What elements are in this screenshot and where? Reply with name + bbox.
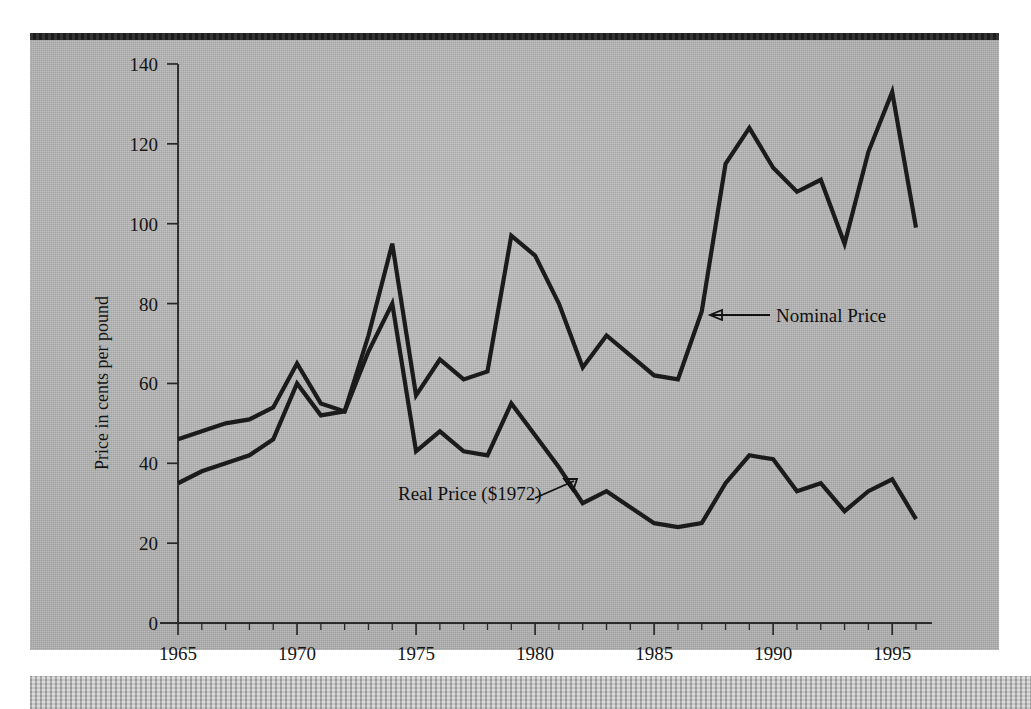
- y-axis-title: Price in cents per pound: [92, 296, 112, 470]
- series-line-nominal-price: [178, 92, 916, 439]
- x-axis: 1965197019751980198519901995: [159, 623, 932, 664]
- y-axis: 020406080100120140: [130, 54, 179, 634]
- y-axis-tick-labels: 020406080100120140: [130, 54, 159, 634]
- y-tick-label: 120: [130, 134, 159, 155]
- price-line-chart: 020406080100120140 196519701975198019851…: [0, 0, 1031, 709]
- nominal-annotation-arrow: [710, 310, 770, 320]
- nominal-annotation-label: Nominal Price: [776, 305, 886, 326]
- x-tick-label: 1985: [635, 643, 673, 664]
- annotation-real-price: Real Price ($1972): [398, 479, 577, 505]
- y-tick-label: 100: [130, 214, 159, 235]
- y-tick-label: 140: [130, 54, 159, 75]
- x-tick-label: 1975: [397, 643, 435, 664]
- x-tick-label: 1970: [278, 643, 316, 664]
- x-axis-tick-labels: 1965197019751980198519901995: [159, 643, 911, 664]
- y-tick-label: 20: [139, 533, 158, 554]
- y-axis-ticks: [167, 64, 178, 623]
- x-axis-minor-ticks: [178, 623, 916, 635]
- annotation-nominal-price: Nominal Price: [710, 305, 886, 326]
- y-tick-label: 60: [139, 373, 158, 394]
- x-tick-label: 1965: [159, 643, 197, 664]
- x-tick-label: 1980: [516, 643, 554, 664]
- x-tick-label: 1990: [754, 643, 792, 664]
- x-tick-label: 1995: [873, 643, 911, 664]
- y-tick-label: 40: [139, 453, 158, 474]
- y-tick-label: 0: [149, 613, 159, 634]
- real-annotation-label: Real Price ($1972): [398, 483, 542, 505]
- y-tick-label: 80: [139, 294, 158, 315]
- figure-page: 020406080100120140 196519701975198019851…: [0, 0, 1031, 709]
